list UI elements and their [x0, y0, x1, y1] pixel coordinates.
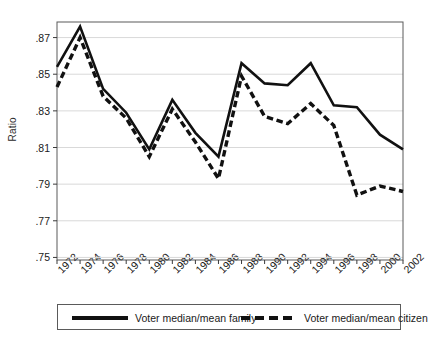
legend-entry-family: Voter median/mean family: [72, 305, 256, 331]
legend-label-family: Voter median/mean family: [135, 312, 256, 324]
chart-legend: Voter median/mean family Voter median/me…: [57, 304, 401, 330]
series-line-citizen: [57, 38, 403, 196]
legend-entry-citizen: Voter median/mean citizen: [241, 305, 428, 331]
plot-border: [57, 22, 403, 260]
plot-frame: [57, 22, 403, 260]
legend-swatch-dashed-line-icon: [241, 312, 297, 324]
gridlines: [57, 38, 403, 258]
legend-label-citizen: Voter median/mean citizen: [304, 312, 428, 324]
series-line-family: [57, 27, 403, 157]
legend-swatch-solid-line-icon: [72, 312, 128, 324]
axis-tick-marks: [53, 38, 403, 264]
